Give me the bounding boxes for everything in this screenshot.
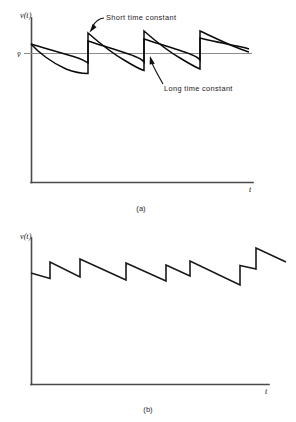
panel-b-y-axis-label: v(t) (20, 232, 32, 241)
panel-a-x-axis-label: t (249, 185, 252, 194)
panel-b-x-axis-label: t (265, 387, 268, 396)
panel-b: v(t) t (b) (20, 232, 286, 414)
panel-b-waveform (31, 248, 286, 285)
panel-a-long-time-constant-wave (31, 38, 249, 63)
annotation-long-time-constant: Long time constant (150, 56, 233, 93)
long-time-constant-label: Long time constant (164, 84, 233, 93)
long-time-constant-arrowhead (150, 56, 155, 65)
panel-a-short-time-constant-wave (31, 31, 249, 74)
annotation-short-time-constant: Short time constant (90, 13, 177, 33)
short-time-constant-arrowhead (90, 24, 97, 33)
figure-root: v(t) v̄ t Short time constant Long time … (0, 0, 296, 422)
panel-a-y-axis-label: v(t) (20, 11, 32, 20)
panel-a-caption: (a) (136, 204, 146, 213)
panel-a: v(t) v̄ t Short time constant Long time … (17, 11, 253, 213)
long-time-constant-leader (152, 62, 164, 84)
short-time-constant-label: Short time constant (106, 13, 176, 22)
panel-b-caption: (b) (143, 405, 153, 414)
panel-a-mean-level-label: v̄ (17, 50, 21, 59)
